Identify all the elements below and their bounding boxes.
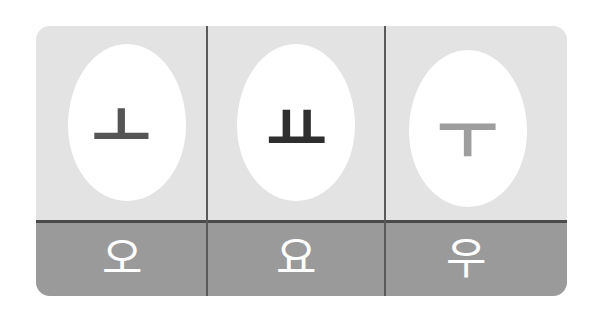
syllable-cell-yo: 요 [207, 223, 385, 296]
vertical-divider [384, 26, 386, 296]
vowel-cell-o: ㅗ [36, 26, 207, 221]
syllable-cell-u: 우 [385, 223, 567, 296]
syllable-label: 우 [365, 229, 567, 289]
vowel-row: ㅗ ㅛ ㅜ [36, 26, 567, 221]
vowel-glyph: ㅗ [36, 88, 207, 168]
vowel-glyph: ㅛ [207, 90, 385, 170]
vowel-glyph: ㅜ [367, 96, 567, 176]
vowel-cell-yo: ㅛ [207, 26, 385, 221]
vertical-divider [206, 26, 208, 296]
vowel-card-strip: ㅗ ㅛ ㅜ 오 요 우 [36, 26, 567, 296]
syllable-row: 오 요 우 [36, 223, 567, 296]
vowel-cell-u: ㅜ [385, 26, 567, 221]
syllable-label: 요 [207, 229, 385, 289]
syllable-label: 오 [36, 229, 207, 289]
syllable-cell-o: 오 [36, 223, 207, 296]
